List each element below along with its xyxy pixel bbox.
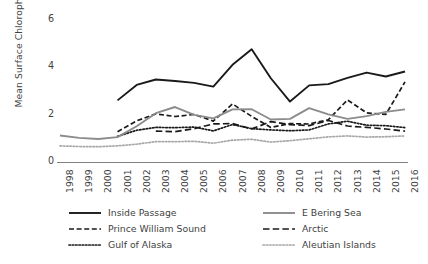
x-tick-label: 2015 [390, 169, 401, 193]
legend-item: Prince William Sound [68, 222, 206, 236]
series-line [118, 49, 406, 101]
legend-item: Gulf of Alaska [68, 238, 172, 252]
x-tick-label: 2005 [198, 169, 209, 193]
legend-item: Inside Passage [68, 206, 177, 220]
legend-label: Prince William Sound [108, 222, 206, 236]
legend-key-swatch [68, 208, 102, 218]
series-line [60, 107, 405, 139]
y-tick-label: 4 [40, 60, 54, 71]
x-tick-label: 2014 [371, 169, 382, 193]
x-tick-label: 2006 [217, 169, 228, 193]
legend-key-swatch [262, 224, 296, 234]
x-tick-label: 2016 [409, 169, 420, 193]
legend-label: Gulf of Alaska [108, 238, 172, 252]
legend-key-swatch [68, 224, 102, 234]
y-axis-label: Mean Surface Chlorophyll (mg m⁻³) [13, 0, 24, 108]
x-tick-label: 1999 [83, 169, 94, 193]
x-tick-label: 1998 [64, 169, 75, 193]
legend-item: Aleutian Islands [262, 238, 376, 252]
x-tick-label: 2009 [275, 169, 286, 193]
legend-key-swatch [68, 240, 102, 250]
x-tick-label: 2012 [332, 169, 343, 193]
legend-label: Inside Passage [108, 206, 177, 220]
y-tick-label: 0 [40, 155, 54, 166]
chart-figure: Mean Surface Chlorophyll (mg m⁻³) 0246 1… [0, 0, 428, 264]
x-tick-label: 2011 [313, 169, 324, 193]
legend-label: Aleutian Islands [302, 238, 376, 252]
legend-label: E Bering Sea [302, 206, 361, 220]
x-tick-label: 2002 [141, 169, 152, 193]
legend-label: Arctic [302, 222, 328, 236]
plot-area [58, 10, 408, 162]
x-tick-label: 2010 [294, 169, 305, 193]
x-tick-label: 2003 [160, 169, 171, 193]
y-tick-label: 2 [40, 108, 54, 119]
x-tick-label: 2013 [352, 169, 363, 193]
legend-item: E Bering Sea [262, 206, 361, 220]
x-tick-label: 2008 [256, 169, 267, 193]
x-tick-label: 2000 [102, 169, 113, 193]
chart-legend: Inside PassagePrince William SoundGulf o… [0, 206, 428, 264]
series-line [118, 121, 406, 136]
series-lines [58, 10, 408, 162]
legend-item: Arctic [262, 222, 328, 236]
legend-key-swatch [262, 240, 296, 250]
x-tick-label: 2007 [237, 169, 248, 193]
y-tick-label: 6 [40, 13, 54, 24]
x-tick-label: 2001 [122, 169, 133, 193]
legend-key-swatch [262, 208, 296, 218]
x-tick-label: 2004 [179, 169, 190, 193]
